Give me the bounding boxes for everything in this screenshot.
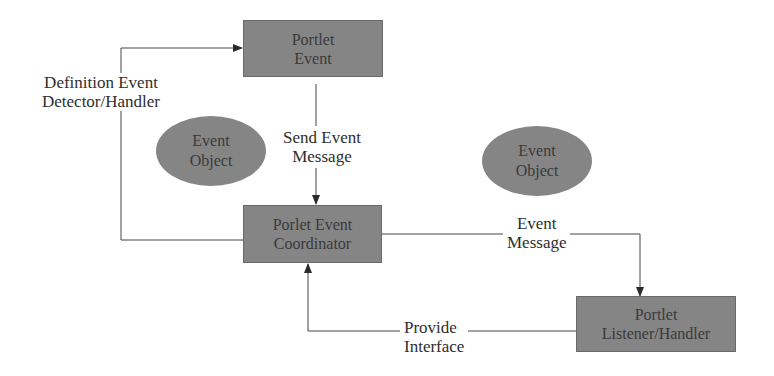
ellipse-label: Object <box>516 161 559 181</box>
edge-label-line: Detector/Handler <box>42 92 160 111</box>
edge-label-line: Provide <box>404 318 464 337</box>
event-object-ellipse-1: Event Object <box>156 116 266 186</box>
edge-label-line: Message <box>507 233 566 252</box>
ellipse-label: Object <box>190 151 233 171</box>
ellipse-label: Event <box>516 141 559 161</box>
event-object-ellipse-2: Event Object <box>482 126 592 196</box>
provide-interface-label: Provide Interface <box>400 316 468 358</box>
node-label: Event <box>292 49 335 68</box>
edge-label-line: Interface <box>404 337 464 356</box>
definition-event-label: Definition Event Detector/Handler <box>40 73 162 111</box>
ellipse-label: Event <box>190 131 233 151</box>
node-label: Porlet Event <box>273 215 353 234</box>
send-event-message-label: Send Event Message <box>281 126 363 168</box>
node-label: Portlet <box>602 305 710 324</box>
portlet-event-coordinator-node: Porlet Event Coordinator <box>243 205 382 263</box>
portlet-listener-handler-node: Portlet Listener/Handler <box>576 296 736 352</box>
event-message-label: Event Message <box>503 212 570 254</box>
edge-label-line: Event <box>507 214 566 233</box>
portlet-event-node: Portlet Event <box>243 20 383 77</box>
edge-label-line: Message <box>283 147 361 166</box>
node-label: Portlet <box>292 30 335 49</box>
node-label: Coordinator <box>273 234 353 253</box>
edge-label-line: Definition Event <box>42 73 160 92</box>
edge-label-line: Send Event <box>283 128 361 147</box>
node-label: Listener/Handler <box>602 324 710 343</box>
